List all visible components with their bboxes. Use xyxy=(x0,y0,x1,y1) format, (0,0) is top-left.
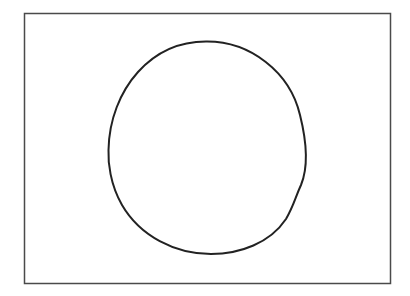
hand-drawn-circle xyxy=(108,41,305,254)
diagram-canvas xyxy=(0,0,410,296)
frame-rectangle xyxy=(25,14,391,284)
